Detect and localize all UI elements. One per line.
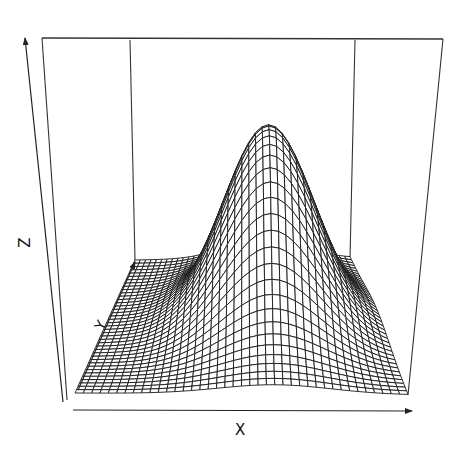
- mesh-facet: [257, 309, 265, 324]
- mesh-facet: [273, 345, 281, 355]
- mesh-facet: [270, 168, 277, 184]
- mesh-facet: [291, 379, 300, 386]
- mesh-facet: [281, 322, 289, 335]
- mesh-facet: [272, 294, 280, 309]
- mesh-facet: [272, 263, 280, 280]
- mesh-facet: [266, 378, 275, 384]
- mesh-facet: [158, 388, 167, 392]
- mesh-facet: [200, 384, 209, 390]
- x-axis-arrow: [73, 410, 412, 411]
- mesh-facet: [266, 371, 274, 378]
- mesh-facet: [273, 309, 281, 323]
- mesh-facet: [225, 381, 233, 387]
- mesh-facet: [273, 334, 281, 345]
- box-top-edge: [42, 38, 443, 39]
- mesh-facet: [175, 387, 184, 392]
- mesh-facet: [183, 386, 192, 391]
- box-back-right-edge: [350, 40, 355, 258]
- mesh-facet: [290, 364, 299, 373]
- mesh-facet: [167, 388, 176, 392]
- mesh-facet: [308, 381, 317, 388]
- mesh-facet: [258, 345, 266, 356]
- mesh-facet: [271, 214, 279, 232]
- box-front-right-edge: [408, 39, 443, 395]
- mesh-facet: [242, 379, 250, 386]
- mesh-facet: [332, 384, 341, 390]
- mesh-facet: [257, 295, 265, 311]
- mesh-facet: [291, 372, 300, 380]
- mesh-facet: [341, 385, 350, 391]
- mesh-facet: [233, 380, 241, 387]
- mesh-facet: [258, 364, 266, 372]
- mesh-facet: [280, 309, 288, 324]
- mesh-facet: [263, 182, 270, 199]
- mesh-facet: [117, 390, 126, 393]
- mesh-facet: [250, 372, 258, 379]
- mesh-facet: [257, 334, 265, 346]
- mesh-facet: [258, 355, 266, 364]
- mesh-facet: [250, 356, 258, 366]
- surface-plot: [0, 0, 459, 457]
- mesh-facet: [250, 364, 258, 372]
- mesh-facet: [264, 230, 272, 248]
- mesh-facet: [150, 389, 159, 393]
- mesh-facet: [282, 372, 291, 379]
- mesh-facet: [282, 364, 291, 372]
- mesh-facet: [271, 197, 279, 215]
- mesh-facet: [324, 383, 333, 389]
- mesh-facet: [282, 355, 290, 364]
- mesh-facet: [258, 371, 266, 378]
- mesh-facet: [316, 382, 325, 389]
- mesh-facet: [258, 378, 266, 385]
- mesh-facet: [265, 334, 273, 345]
- mesh-facet: [265, 294, 273, 309]
- z-axis-label: Z: [18, 237, 33, 247]
- mesh-facet: [272, 279, 280, 295]
- mesh-facet: [265, 345, 273, 355]
- mesh-facet: [274, 355, 282, 364]
- mesh-facet: [265, 322, 273, 334]
- mesh-facet: [133, 389, 142, 393]
- mesh-facet: [290, 356, 299, 366]
- mesh-facet: [265, 279, 273, 295]
- mesh-facet: [265, 309, 273, 323]
- box-front-left-edge: [42, 38, 67, 400]
- x-axis-label: X: [235, 423, 245, 438]
- mesh-facet: [263, 155, 270, 169]
- mesh-facet: [263, 168, 270, 184]
- mesh-facet: [242, 373, 250, 380]
- z-axis-arrow: [25, 38, 63, 402]
- mesh-facet: [264, 197, 271, 215]
- mesh-facet: [281, 334, 289, 346]
- mesh-facet: [217, 382, 225, 388]
- mesh-facet: [270, 155, 277, 169]
- mesh-facet: [142, 389, 151, 393]
- mesh-facet: [192, 385, 201, 390]
- mesh-facet: [266, 355, 274, 364]
- mesh-facet: [266, 363, 274, 371]
- mesh-facet: [271, 230, 279, 248]
- mesh-facet: [264, 247, 272, 264]
- mesh-facet: [281, 345, 289, 356]
- mesh-facet: [270, 182, 277, 199]
- mesh-facet: [299, 380, 308, 387]
- mesh-facet: [264, 214, 272, 232]
- mesh-facet: [264, 263, 272, 280]
- mesh-facet: [398, 390, 408, 394]
- mesh-facet: [272, 247, 280, 264]
- mesh-facet: [125, 389, 134, 393]
- mesh-facet: [257, 322, 265, 335]
- mesh-facet: [274, 371, 283, 378]
- surface-mesh: [75, 125, 408, 395]
- mesh-facet: [257, 264, 265, 282]
- mesh-facet: [275, 378, 284, 385]
- mesh-facet: [283, 379, 292, 386]
- mesh-facet: [250, 346, 258, 357]
- mesh-facet: [280, 295, 288, 311]
- mesh-facet: [257, 280, 265, 297]
- mesh-facet: [273, 322, 281, 335]
- mesh-facet: [280, 280, 288, 297]
- box-back-left-edge: [130, 40, 135, 260]
- mesh-facet: [208, 383, 217, 389]
- mesh-facet: [118, 386, 127, 390]
